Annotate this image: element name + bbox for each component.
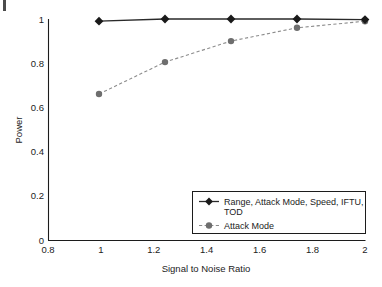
x-axis-title: Signal to Noise Ratio xyxy=(162,263,251,274)
x-tick-label: 1 xyxy=(98,244,103,255)
x-tick-labels: 0.8 1 1.2 1.4 1.6 1.8 2 xyxy=(41,244,367,255)
y-axis-title: Power xyxy=(13,117,24,144)
data-point-marker xyxy=(161,15,170,24)
data-point-marker xyxy=(294,25,300,31)
y-tick-label: 0.4 xyxy=(31,146,44,157)
x-tick-label: 1.4 xyxy=(200,244,213,255)
power-vs-snr-chart: 1 0.8 0.6 0.4 0.2 0 0.8 1 1.2 1.4 1.6 1.… xyxy=(0,0,382,287)
y-tick-label: 0.2 xyxy=(31,190,44,201)
series-attack-mode xyxy=(96,18,368,97)
x-tick-label: 0.8 xyxy=(41,244,54,255)
data-point-marker xyxy=(228,38,234,44)
data-point-marker xyxy=(293,15,302,24)
legend-label-combined-line2: TOD xyxy=(224,207,243,217)
x-tick-label: 2 xyxy=(362,244,367,255)
y-tick-label: 0.8 xyxy=(31,58,44,69)
x-tick-label: 1.6 xyxy=(253,244,266,255)
legend-label-attack-mode: Attack Mode xyxy=(224,221,274,231)
y-tick-labels: 1 0.8 0.6 0.4 0.2 0 xyxy=(31,14,44,246)
data-point-marker xyxy=(227,15,236,24)
x-tick-label: 1.8 xyxy=(306,244,319,255)
scan-artifact xyxy=(3,0,6,11)
data-point-marker xyxy=(162,59,168,65)
x-tick-label: 1.2 xyxy=(147,244,160,255)
data-point-marker xyxy=(361,15,370,24)
data-point-marker xyxy=(96,91,102,97)
legend-circle-marker-icon xyxy=(206,222,212,228)
series-range-attack-speed-iftu-tod xyxy=(95,15,370,26)
chart-canvas: 1 0.8 0.6 0.4 0.2 0 0.8 1 1.2 1.4 1.6 1.… xyxy=(0,0,382,287)
legend-label-combined-line1: Range, Attack Mode, Speed, IFTU, xyxy=(224,197,364,207)
y-tick-label: 0.6 xyxy=(31,102,44,113)
chart-legend[interactable]: Range, Attack Mode, Speed, IFTU, TOD Att… xyxy=(193,192,366,234)
y-tick-label: 1 xyxy=(39,14,44,25)
data-point-marker xyxy=(95,17,104,26)
series-attack-mode-line xyxy=(99,21,365,94)
